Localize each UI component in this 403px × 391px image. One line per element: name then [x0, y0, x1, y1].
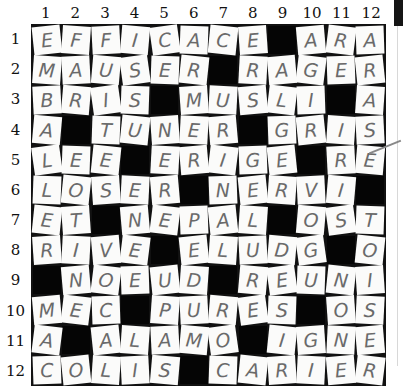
letter-cell[interactable]: R	[267, 175, 297, 205]
letter-cell[interactable]: U	[149, 264, 180, 295]
letter-cell[interactable]: T	[356, 205, 385, 234]
letter-cell[interactable]: R	[354, 354, 385, 386]
letter-cell[interactable]: P	[150, 295, 180, 325]
letter-cell[interactable]: E	[179, 115, 208, 145]
letter-cell[interactable]: O	[326, 295, 356, 325]
letter-cell[interactable]: S	[237, 85, 267, 116]
letter-cell[interactable]: G	[296, 325, 326, 355]
letter-cell[interactable]: B	[32, 85, 61, 115]
letter-cell[interactable]: D	[179, 265, 209, 295]
letter-cell[interactable]: E	[61, 294, 92, 326]
letter-cell[interactable]: O	[207, 324, 239, 356]
letter-cell[interactable]: R	[355, 55, 386, 86]
letter-cell[interactable]: I	[326, 115, 356, 145]
letter-cell[interactable]: L	[33, 175, 62, 204]
letter-cell[interactable]: U	[209, 85, 238, 115]
letter-cell[interactable]: E	[90, 144, 121, 175]
letter-cell[interactable]: N	[120, 205, 150, 236]
letter-cell[interactable]: E	[150, 55, 179, 84]
letter-cell[interactable]: E	[237, 294, 269, 326]
letter-cell[interactable]: L	[266, 84, 297, 116]
letter-cell[interactable]: G	[238, 145, 267, 174]
letter-cell[interactable]: E	[178, 234, 209, 265]
letter-cell[interactable]: A	[31, 324, 62, 356]
letter-cell[interactable]: M	[32, 55, 62, 85]
letter-cell[interactable]: I	[120, 355, 149, 385]
letter-cell[interactable]: N	[150, 115, 180, 145]
letter-cell[interactable]: A	[90, 324, 121, 355]
letter-cell[interactable]: L	[91, 355, 121, 385]
letter-cell[interactable]: S	[119, 54, 151, 86]
letter-cell[interactable]: O	[61, 174, 92, 205]
letter-cell[interactable]: R	[296, 114, 327, 145]
letter-cell[interactable]: I	[326, 175, 356, 206]
letter-cell[interactable]: R	[178, 55, 209, 86]
letter-cell[interactable]: L	[120, 325, 150, 355]
letter-cell[interactable]: I	[62, 235, 91, 265]
letter-cell[interactable]: S	[268, 295, 297, 324]
letter-cell[interactable]: S	[149, 354, 179, 385]
letter-cell[interactable]: I	[297, 355, 326, 385]
letter-cell[interactable]: A	[356, 26, 385, 55]
letter-cell[interactable]: L	[31, 144, 63, 176]
letter-cell[interactable]: M	[179, 85, 209, 115]
letter-cell[interactable]: O	[61, 354, 92, 385]
letter-cell[interactable]: S	[355, 115, 384, 145]
letter-cell[interactable]: S	[121, 85, 150, 114]
letter-cell[interactable]: C	[208, 25, 239, 56]
letter-cell[interactable]: E	[119, 234, 150, 266]
letter-cell[interactable]: E	[32, 25, 63, 56]
letter-cell[interactable]: R	[325, 24, 356, 56]
letter-cell[interactable]: R	[237, 264, 267, 295]
letter-cell[interactable]: A	[62, 55, 91, 85]
letter-cell[interactable]: N	[209, 175, 238, 204]
letter-cell[interactable]: A	[296, 25, 326, 56]
letter-cell[interactable]: V	[91, 235, 121, 266]
letter-cell[interactable]: D	[267, 235, 297, 266]
letter-cell[interactable]: R	[326, 145, 355, 175]
letter-cell[interactable]: I	[297, 85, 326, 114]
letter-cell[interactable]: R	[267, 355, 297, 385]
letter-cell[interactable]: S	[91, 175, 121, 205]
letter-cell[interactable]: M	[32, 294, 62, 325]
letter-cell[interactable]: N	[61, 264, 91, 295]
letter-cell[interactable]: S	[325, 204, 357, 236]
letter-cell[interactable]: G	[268, 115, 297, 144]
letter-cell[interactable]: E	[326, 55, 355, 84]
letter-cell[interactable]: E	[120, 175, 149, 205]
letter-cell[interactable]: R	[61, 85, 91, 116]
letter-cell[interactable]: G	[296, 234, 328, 266]
letter-cell[interactable]: A	[267, 55, 297, 86]
letter-cell[interactable]: A	[150, 325, 179, 355]
letter-cell[interactable]: A	[208, 204, 239, 235]
letter-cell[interactable]: E	[326, 354, 356, 385]
letter-cell[interactable]: L	[238, 205, 268, 235]
letter-cell[interactable]: R	[208, 115, 238, 146]
letter-cell[interactable]: I	[120, 25, 150, 56]
letter-cell[interactable]: U	[91, 55, 121, 86]
letter-cell[interactable]: E	[266, 264, 298, 296]
letter-cell[interactable]: E	[32, 204, 63, 235]
letter-cell[interactable]: R	[208, 294, 238, 325]
letter-cell[interactable]: I	[90, 84, 122, 116]
letter-cell[interactable]: M	[179, 324, 209, 355]
letter-cell[interactable]: E	[267, 144, 298, 175]
letter-cell[interactable]: O	[296, 205, 326, 236]
letter-cell[interactable]: F	[61, 25, 91, 55]
letter-cell[interactable]: T	[91, 115, 120, 144]
letter-cell[interactable]: S	[355, 295, 384, 325]
letter-cell[interactable]: E	[149, 204, 180, 236]
letter-cell[interactable]: E	[150, 145, 179, 175]
letter-cell[interactable]: N	[326, 325, 355, 355]
letter-cell[interactable]: I	[208, 144, 239, 176]
letter-cell[interactable]: P	[179, 205, 208, 234]
letter-cell[interactable]: C	[91, 295, 120, 324]
letter-cell[interactable]: L	[208, 235, 238, 265]
letter-cell[interactable]: R	[149, 175, 179, 206]
letter-cell[interactable]: U	[297, 265, 326, 294]
letter-cell[interactable]: A	[32, 115, 62, 146]
letter-cell[interactable]: A	[355, 85, 385, 115]
letter-cell[interactable]: O	[90, 264, 121, 296]
letter-cell[interactable]: R	[32, 235, 62, 265]
letter-cell[interactable]: E	[238, 25, 268, 55]
